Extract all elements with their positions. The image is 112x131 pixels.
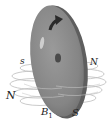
label-B1: B1 [41, 107, 53, 120]
label-B-subscript: 1 [48, 112, 52, 120]
label-S: S [72, 108, 79, 118]
label-N-right: N [90, 58, 98, 67]
label-s-small: s [20, 57, 25, 66]
diagram: s N N B1 S [0, 0, 112, 131]
label-N-left: N [6, 90, 16, 101]
axle-dot [55, 54, 61, 63]
